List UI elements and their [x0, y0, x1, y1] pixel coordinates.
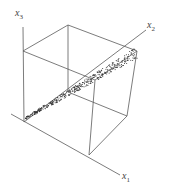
cube-edge: [89, 116, 127, 155]
cube-edge: [68, 25, 137, 51]
cube-edge: [89, 80, 95, 155]
x3-axis-label: x3: [15, 8, 23, 21]
cube-edge: [95, 51, 137, 80]
x1-axis-label: x1: [122, 171, 130, 184]
cube-diagram: [0, 0, 169, 192]
cube-edge: [68, 92, 127, 116]
x3-axis: [23, 27, 24, 122]
x1-axis: [11, 114, 120, 175]
cube-edge: [23, 25, 68, 51]
cube-edge: [127, 51, 137, 116]
x2-axis-label: x2: [147, 20, 155, 33]
cube-edge: [23, 51, 95, 80]
